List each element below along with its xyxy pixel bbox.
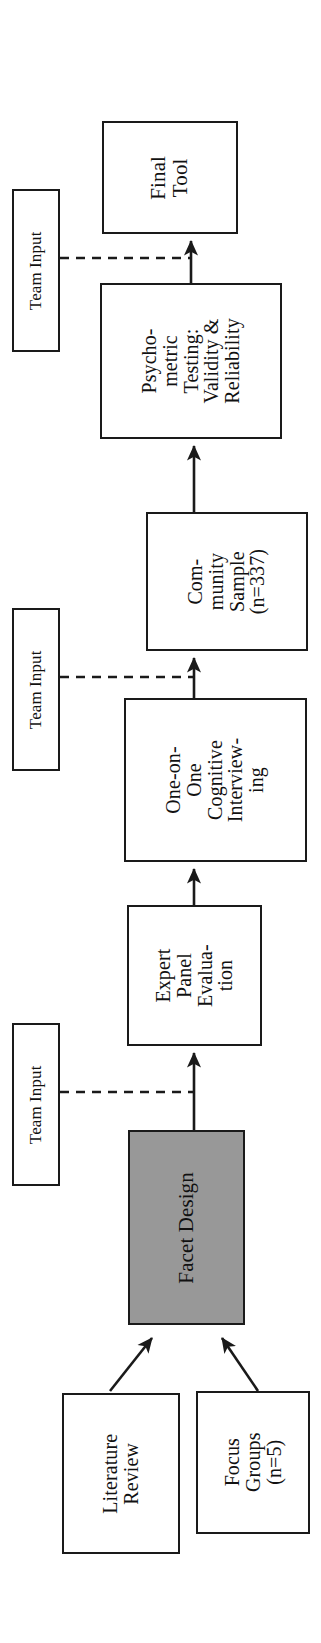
node-facet-design-label: Facet Design [176,1172,198,1283]
node-psychometric-testing[interactable]: Psycho- metric Testing: Validity & Relia… [100,283,282,439]
node-cognitive-interviewing[interactable]: One-on- One Cognitive Interview- ing [124,698,307,862]
node-team-input-top-label: Team Input [27,231,45,310]
node-cognitive-interviewing-label: One-on- One Cognitive Interview- ing [164,738,268,822]
node-expert-panel-evaluation[interactable]: Expert Panel Evalua- tion [127,905,262,1046]
node-team-input-bottom[interactable]: Team Input [12,1023,60,1186]
node-community-sample-label: Com- munity Sample (n=337) [185,549,268,614]
node-focus-groups[interactable]: Focus Groups (n=5) [196,1391,310,1534]
node-facet-design[interactable]: Facet Design [128,1130,245,1325]
edge-focus-to-facet [222,1338,258,1391]
flowchart-canvas: Final Tool Team Input Psycho- metric Tes… [0,0,321,1643]
node-team-input-middle[interactable]: Team Input [12,608,60,771]
edge-literature-to-facet [110,1338,152,1391]
node-expert-panel-evaluation-label: Expert Panel Evalua- tion [153,944,236,1007]
node-focus-groups-label: Focus Groups (n=5) [222,1433,284,1493]
node-team-input-middle-label: Team Input [27,650,45,729]
node-literature-review[interactable]: Literature Review [62,1393,180,1554]
node-psychometric-testing-label: Psycho- metric Testing: Validity & Relia… [139,318,243,404]
node-team-input-top[interactable]: Team Input [12,189,60,352]
node-final-tool[interactable]: Final Tool [102,121,238,234]
node-team-input-bottom-label: Team Input [27,1065,45,1144]
node-community-sample[interactable]: Com- munity Sample (n=337) [146,512,308,651]
node-final-tool-label: Final Tool [148,156,192,200]
node-literature-review-label: Literature Review [100,1434,142,1514]
